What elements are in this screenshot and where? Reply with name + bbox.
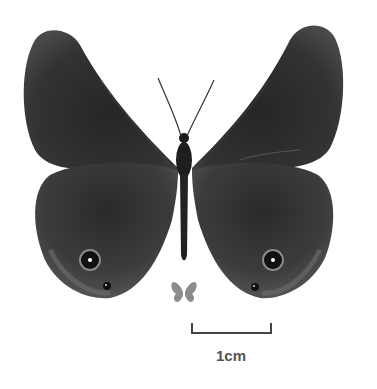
right-hindwing	[192, 163, 333, 298]
right-antenna	[187, 80, 214, 136]
left-hindwing	[35, 163, 178, 298]
butterfly-size-icon	[171, 282, 196, 302]
scale-bar-label: 1cm	[190, 347, 272, 364]
thorax	[176, 142, 192, 178]
butterfly-illustration	[0, 0, 377, 389]
left-eyespot-large	[79, 249, 101, 271]
left-forewing	[24, 30, 178, 170]
right-eyespot-small	[251, 283, 259, 291]
abdomen	[180, 175, 188, 260]
scale-bar	[192, 323, 271, 334]
left-antenna	[158, 78, 181, 136]
right-eyespot-large	[262, 249, 284, 271]
specimen-photo: 1cm	[0, 0, 377, 389]
left-eyespot-small	[103, 282, 111, 290]
